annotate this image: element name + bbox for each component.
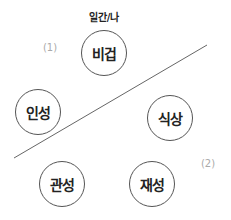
top-label-ilgan: 일간/나 [89,9,120,24]
region-mark-2: (2) [201,158,215,169]
node-bigeop: 비겁 [81,30,127,76]
five-elements-diagram: 일간/나 (1) (2) 비겁 인성 식상 관성 재성 [0,0,231,220]
node-jaeseong: 재성 [129,161,175,207]
region-mark-1: (1) [43,42,57,53]
node-siksang: 식상 [147,95,193,141]
node-gwanseong: 관성 [39,161,85,207]
node-inseong: 인성 [15,89,61,135]
